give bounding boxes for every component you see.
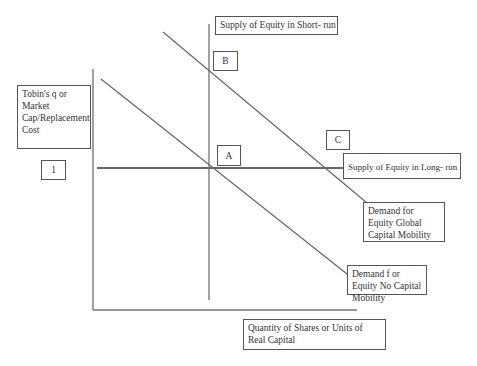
x-axis-label: Quantity of Shares or Units of Real Capi…	[243, 319, 386, 350]
y-axis-label: Tobin's q or Market Cap/Replacement Cost	[17, 85, 91, 149]
demand-global-label: Demand for Equity Global Capital Mobilit…	[363, 202, 445, 242]
supply-short-run-label: Supply of Equity in Short- run	[215, 16, 338, 35]
point-c-label: C	[326, 130, 350, 150]
demand-no-mobility-line	[101, 79, 347, 274]
demand-global-line	[163, 32, 367, 203]
supply-long-run-label: Supply of Equity in Long- run	[343, 153, 461, 179]
point-a-label: A	[217, 145, 241, 166]
demand-no-mobility-label: Demand f or Equity No Capital Mobility	[347, 265, 427, 295]
point-b-label: B	[213, 51, 238, 71]
y-axis-value-one: 1	[41, 160, 66, 180]
diagram-canvas	[0, 0, 477, 366]
